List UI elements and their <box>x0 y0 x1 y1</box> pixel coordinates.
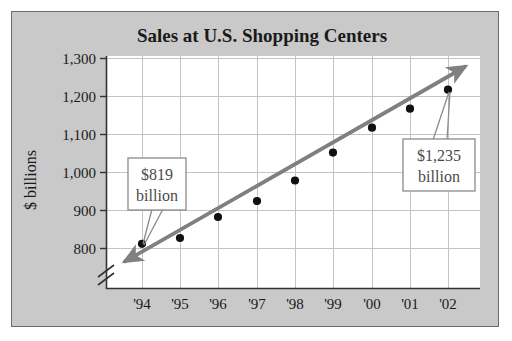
y-axis-ticks <box>100 59 106 249</box>
left-callout-unit: billion <box>136 187 178 204</box>
y-tick-label: 1,300 <box>62 51 96 67</box>
sales-line-chart: 1,300 1,200 1,100 1,000 900 800 '94 '95 … <box>0 0 512 341</box>
left-callout-value: $819 <box>141 166 173 183</box>
right-callout-unit: billion <box>418 168 460 185</box>
x-tick-label: '00 <box>363 296 381 312</box>
x-tick-label: '94 <box>133 296 151 312</box>
data-point <box>214 213 222 221</box>
data-point <box>329 149 337 157</box>
x-tick-label: '95 <box>171 296 189 312</box>
data-point <box>406 105 414 113</box>
y-tick-label: 1,000 <box>62 165 96 181</box>
data-point <box>444 86 452 94</box>
data-point <box>253 197 261 205</box>
chart-figure: 1,300 1,200 1,100 1,000 900 800 '94 '95 … <box>0 0 512 341</box>
x-axis-tick-labels: '94 '95 '96 '97 '98 '99 '00 '01 '02 <box>133 296 457 312</box>
y-tick-label: 1,200 <box>62 89 96 105</box>
x-tick-label: '02 <box>439 296 457 312</box>
chart-title: Sales at U.S. Shopping Centers <box>137 25 387 46</box>
x-tick-label: '97 <box>248 296 266 312</box>
x-tick-label: '96 <box>209 296 227 312</box>
y-tick-label: 800 <box>74 241 97 257</box>
x-tick-label: '99 <box>324 296 342 312</box>
y-tick-label: 1,100 <box>62 127 96 143</box>
x-tick-label: '98 <box>286 296 304 312</box>
x-tick-label: '01 <box>401 296 419 312</box>
right-callout-value: $1,235 <box>417 147 461 164</box>
y-tick-label: 900 <box>74 203 97 219</box>
data-point <box>368 124 376 132</box>
y-axis-tick-labels: 1,300 1,200 1,100 1,000 900 800 <box>62 51 96 257</box>
data-point <box>291 176 299 184</box>
data-point <box>176 234 184 242</box>
y-axis-title: $ billions <box>22 150 39 210</box>
